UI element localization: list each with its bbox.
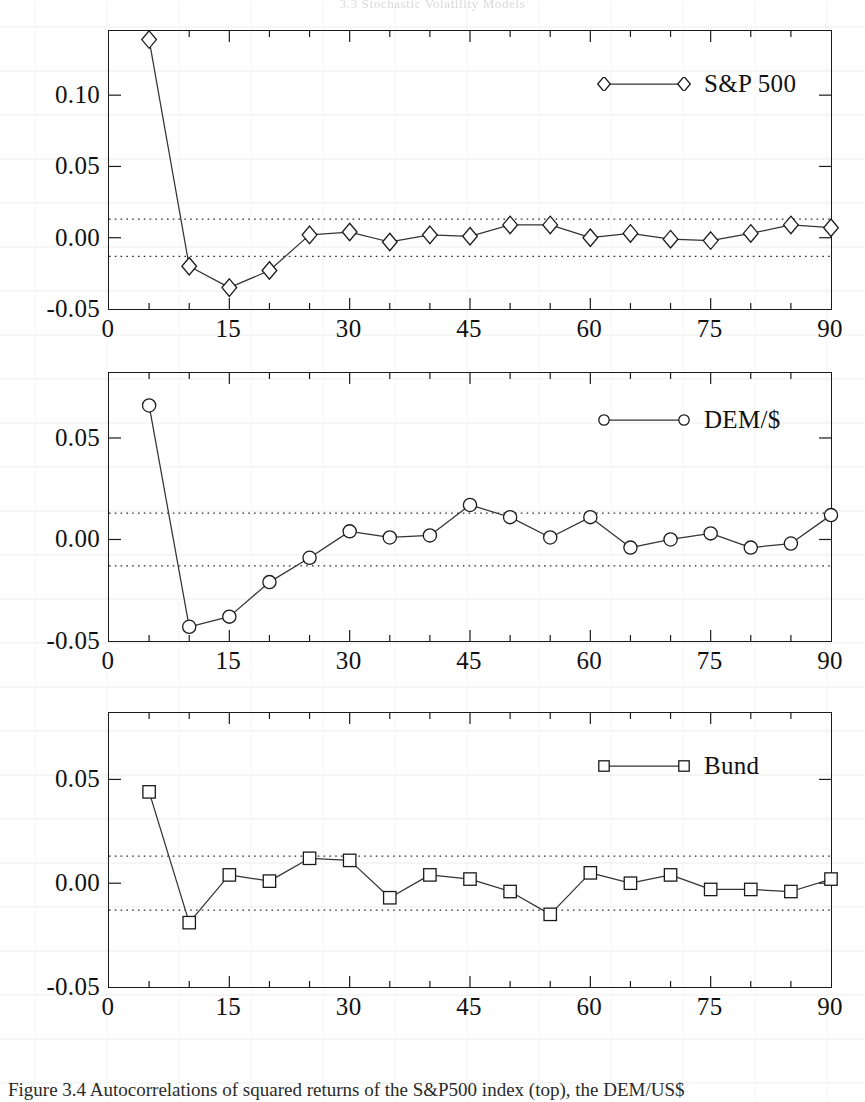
y-tick-label: 0.10: [55, 82, 100, 107]
x-tick-label: 45: [456, 648, 482, 673]
x-tick-label: 15: [216, 316, 242, 341]
x-axis-labels-sp500: 0153045607590: [108, 316, 832, 350]
figure-caption: Figure 3.4 Autocorrelations of squared r…: [8, 1078, 865, 1102]
legend-label-sp500: S&P 500: [704, 70, 796, 98]
x-tick-label: 90: [817, 648, 843, 673]
x-tick-label: 45: [456, 994, 482, 1019]
x-tick-label: 90: [817, 994, 843, 1019]
circle-marker-legend-line: [596, 413, 692, 427]
y-axis-labels-bund: 0.050.00-0.05: [0, 712, 100, 986]
x-tick-label: 90: [817, 316, 843, 341]
acf-panel-dem-usd: 0.050.00-0.05 0153045607590 DEM/$: [0, 366, 865, 662]
x-axis-labels-bund: 0153045607590: [108, 994, 832, 1028]
y-tick-label: 0.05: [55, 424, 100, 449]
x-tick-label: 0: [102, 648, 115, 673]
diamond-marker-legend-line: [596, 77, 692, 91]
x-tick-label: 30: [336, 648, 362, 673]
y-tick-label: -0.05: [46, 628, 100, 653]
y-tick-label: -0.05: [46, 974, 100, 999]
y-tick-label: 0.00: [55, 224, 100, 249]
acf-panel-bund: 0.050.00-0.05 0153045607590 Bund: [0, 706, 865, 1006]
y-axis-labels-sp500: 0.100.050.00-0.05: [0, 30, 100, 308]
y-tick-label: 0.05: [55, 153, 100, 178]
x-tick-label: 15: [216, 994, 242, 1019]
y-tick-label: 0.00: [55, 870, 100, 895]
x-tick-label: 30: [336, 994, 362, 1019]
y-tick-label: 0.00: [55, 526, 100, 551]
x-tick-label: 0: [102, 994, 115, 1019]
y-tick-label: -0.05: [46, 296, 100, 321]
x-tick-label: 0: [102, 316, 115, 341]
y-axis-labels-dem-usd: 0.050.00-0.05: [0, 372, 100, 640]
x-tick-label: 60: [577, 316, 603, 341]
acf-panel-sp500: 0.100.050.00-0.05 0153045607590 S&P 500: [0, 24, 865, 324]
square-marker-legend-line: [596, 759, 692, 773]
x-tick-label: 30: [336, 316, 362, 341]
legend-sp500: S&P 500: [596, 70, 796, 98]
y-tick-label: 0.05: [55, 766, 100, 791]
x-tick-label: 75: [697, 994, 723, 1019]
x-tick-label: 60: [577, 648, 603, 673]
x-axis-labels-dem-usd: 0153045607590: [108, 648, 832, 682]
x-tick-label: 75: [697, 648, 723, 673]
legend-dem-usd: DEM/$: [596, 406, 781, 434]
x-tick-label: 15: [216, 648, 242, 673]
x-tick-label: 75: [697, 316, 723, 341]
x-tick-label: 45: [456, 316, 482, 341]
x-tick-label: 60: [577, 994, 603, 1019]
running-head: 3.3 Stochastic Volatility Models: [0, 0, 865, 12]
legend-label-bund: Bund: [704, 752, 759, 780]
legend-bund: Bund: [596, 752, 759, 780]
legend-label-dem-usd: DEM/$: [704, 406, 781, 434]
